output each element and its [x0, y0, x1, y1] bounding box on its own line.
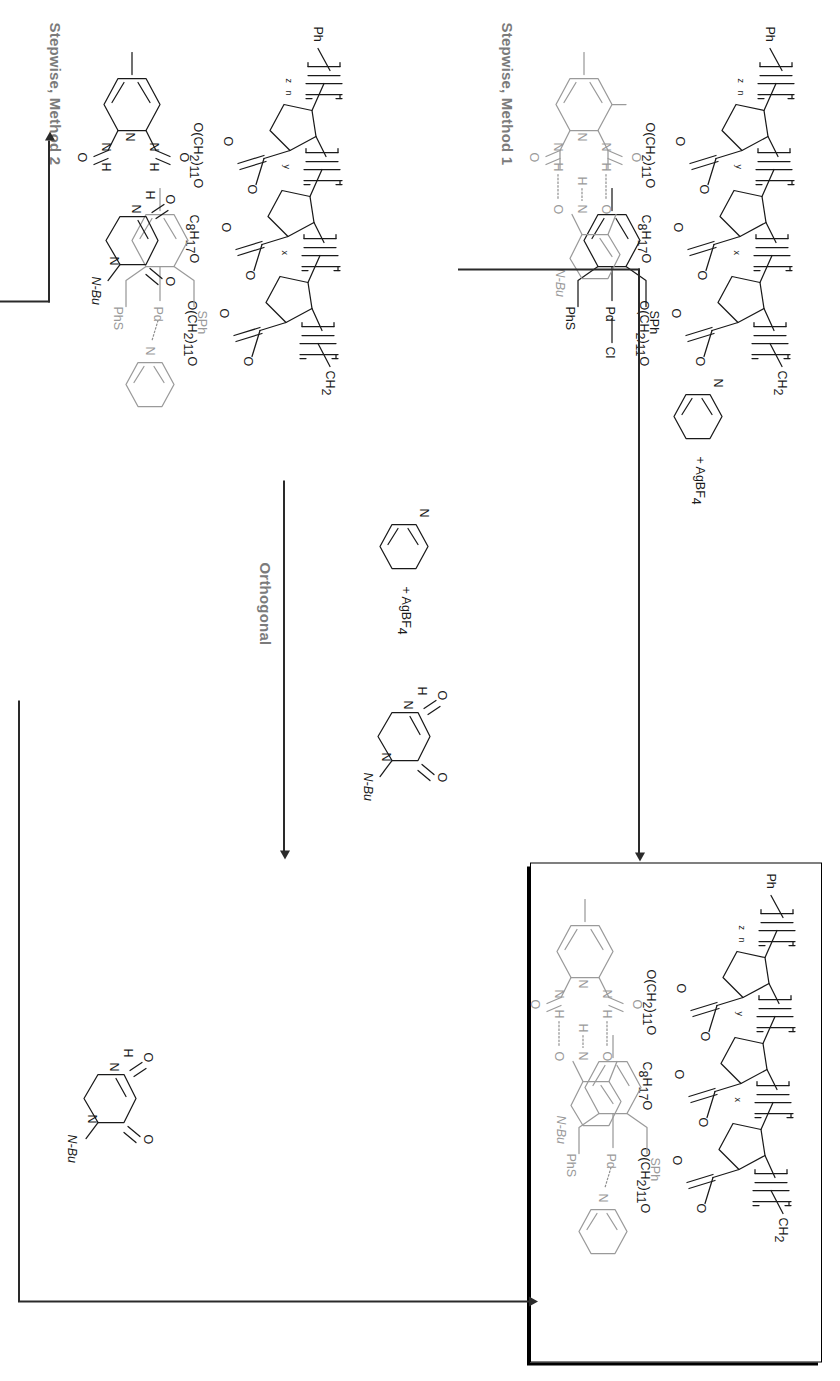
carbonyl-o-2: O [672, 1069, 686, 1079]
arrow-orthogonal-head [280, 850, 290, 859]
reagent-thymine-method2: H N O O N N-Bu [30, 1018, 160, 1188]
thymine-nbu: N-Bu [553, 268, 567, 297]
ester-o-2: O [243, 270, 257, 280]
ester-o-3: O [694, 1203, 708, 1213]
amide-n-top: N [599, 142, 613, 151]
amide-n-top: N [147, 142, 161, 151]
thymine-o-1: O [435, 690, 449, 700]
thymine-n-center: N [576, 1051, 590, 1060]
pincer-sph-right: SPh [195, 310, 209, 334]
label-stepwise-method-1: Stepwise, Method 1 [499, 22, 516, 165]
pyridine-ring [380, 524, 428, 568]
carbonyl-o-3: O [670, 1155, 684, 1165]
pyridine-ring [674, 394, 722, 438]
dap-pyridine-n: N [576, 979, 590, 988]
thymine-ring [378, 700, 440, 780]
pincer-phs-left: PhS [563, 306, 577, 330]
pincer-metal: Pd [604, 1153, 618, 1168]
thymine-nbu-label: N-Bu [65, 1134, 79, 1163]
thymine-o-top: O [599, 204, 613, 214]
block-n-label: n [736, 90, 746, 95]
pyridine-ligand [126, 362, 174, 406]
arrow-orthogonal-line [284, 480, 286, 852]
thymine-n-2: N [85, 1114, 99, 1123]
amide-h-top: H [599, 162, 613, 171]
terminus-label: CH2 [771, 370, 789, 395]
terminus-label: CH2 [772, 1217, 790, 1242]
polymer-end-group: Ph [764, 873, 778, 888]
carbonyl-o-3: O [217, 308, 231, 318]
arrow-m1-seg-v [0, 300, 50, 302]
thymine-o-2: O [435, 772, 449, 782]
reagent-orthogonal: N + AgBF4 H N O O N N-Bu [300, 500, 460, 900]
arrow-m1b-seg-v [458, 268, 640, 270]
block-y-label: y [734, 164, 744, 169]
arrow-m1b-seg-h [639, 268, 641, 854]
block-n-label: n [737, 937, 747, 942]
thymine-n-1: N [129, 204, 143, 213]
pyridine-coordinating-n: N [596, 1193, 610, 1202]
thymine-n-1: N [107, 1062, 121, 1071]
thymine-o-2: O [141, 1134, 155, 1144]
pyridine-coordinating-n: N [143, 346, 157, 355]
thymine-nbu-label: N-Bu [361, 772, 375, 801]
thymine-h-center: H [575, 176, 589, 185]
amide-carbonyl-o-bottom: O [528, 999, 542, 1009]
amide-carbonyl-o-top: O [629, 152, 643, 162]
pyridine-n-label: N [711, 378, 725, 387]
pyridine-n-label: N [417, 508, 431, 517]
block-z-label: z [284, 78, 294, 83]
label-orthogonal: Orthogonal [257, 562, 274, 645]
block-x-label: x [733, 1097, 743, 1102]
thymine-o-bottom: O [551, 204, 565, 214]
block-x-label: x [732, 250, 742, 255]
carbonyl-o-2: O [671, 222, 685, 232]
pyridine-ligand [579, 1209, 627, 1253]
arrow-m1-seg-h [49, 140, 51, 302]
thymine-nbu-label: N-Bu [89, 276, 103, 305]
amide-n-bottom: N [551, 142, 565, 151]
structure-final-product: Ph x y z n CH2 O O O(CH2)11O O O [531, 869, 819, 1359]
dap-pyridine-n: N [575, 132, 589, 141]
amide-n-top: N [600, 989, 614, 998]
pincer-sph-right: SPh [648, 1157, 662, 1181]
pincer-sph-right: SPh [647, 310, 661, 334]
carbonyl-o-1: O [221, 136, 235, 146]
octyl-label: C8H17O [183, 214, 201, 263]
silver-reagent-label: + AgBF4 [395, 586, 413, 634]
thymine-nbu: N-Bu [554, 1115, 568, 1144]
pincer-phs-left: PhS [564, 1153, 578, 1177]
thymine-nh-h: H [415, 686, 429, 695]
carbonyl-o-1: O [674, 983, 688, 993]
amide-h-top: H [600, 1009, 614, 1018]
amide-carbonyl-o-top: O [630, 999, 644, 1009]
block-y-label: y [282, 164, 292, 169]
silver-reagent-label: + AgBF4 [689, 456, 707, 504]
thymine-o-bottom: O [552, 1051, 566, 1061]
octyl-label: C8H17O [635, 214, 653, 263]
ester-o-2: O [696, 1117, 710, 1127]
arrow-m1b-head [635, 852, 645, 861]
figure-root: Ph x y z n CH2 O O O(CH2)11O O O C8H17O [0, 0, 840, 1381]
thymine-nh-h: H [121, 1048, 135, 1057]
thymine-o-1: O [163, 194, 177, 204]
thymine-n-1: N [401, 700, 415, 709]
thymine-n-2: N [107, 256, 121, 265]
amide-carbonyl-o-bottom: O [527, 152, 541, 162]
ester-o-1: O [245, 184, 259, 194]
thymine-o-1: O [141, 1052, 155, 1062]
thymine-o-top: O [600, 1051, 614, 1061]
block-z-label: z [736, 78, 746, 83]
arrow-m2b-seg-h [19, 700, 21, 1302]
amide-n-bottom: N [552, 989, 566, 998]
carbonyl-o-1: O [673, 136, 687, 146]
carbonyl-o-2: O [219, 222, 233, 232]
ester-o-2: O [695, 270, 709, 280]
thymine-n-center: N [575, 204, 589, 213]
thymine-nh-h: H [143, 190, 157, 199]
ester-o-1: O [698, 1031, 712, 1041]
thymine-h-center: H [576, 1023, 590, 1032]
arrow-m1-head [45, 131, 55, 140]
octyl-label: C8H17O [636, 1061, 654, 1110]
carbonyl-o-3: O [669, 308, 683, 318]
